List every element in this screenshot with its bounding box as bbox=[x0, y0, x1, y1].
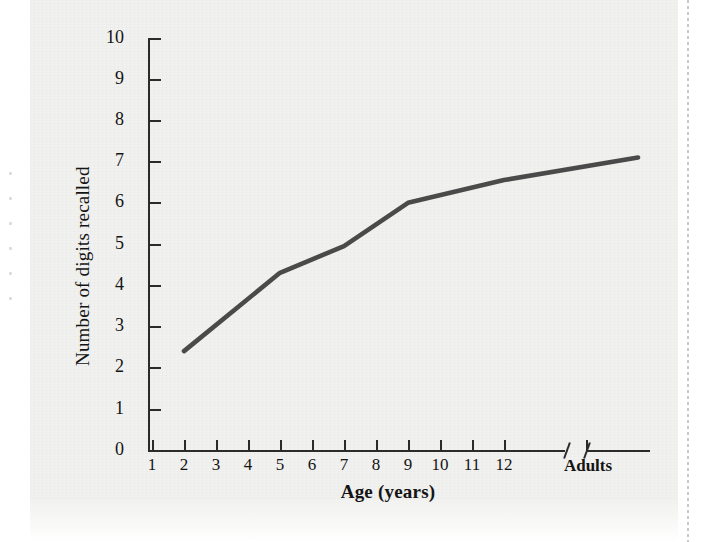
series-layer bbox=[0, 0, 713, 542]
digit-span-line bbox=[184, 158, 638, 352]
line-chart: 10 9 8 7 6 5 4 3 2 1 0 Number of digits … bbox=[0, 0, 713, 542]
